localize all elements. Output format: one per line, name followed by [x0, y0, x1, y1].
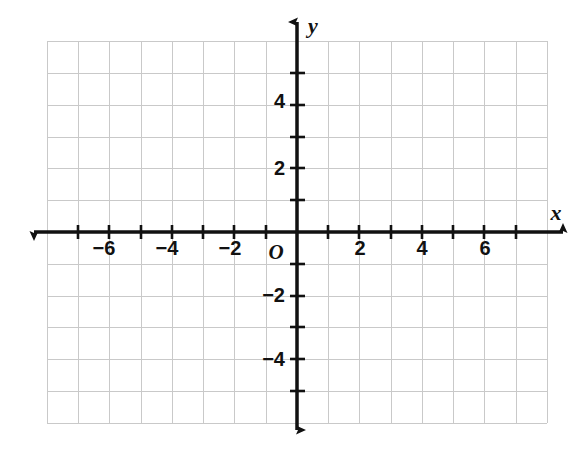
y-tick-label: 4	[274, 90, 286, 112]
x-tick-label: −2	[219, 237, 242, 259]
x-tick-label: −4	[156, 237, 180, 259]
x-tick-label: −6	[93, 237, 116, 259]
x-tick-label: 6	[479, 237, 490, 259]
x-tick-label: 4	[416, 237, 428, 259]
coordinate-plane-figure: −6 −4 −2 2 4 6 4 2 −2 −4 O x y	[0, 0, 577, 467]
coordinate-plane-svg: −6 −4 −2 2 4 6 4 2 −2 −4 O x y	[0, 0, 577, 467]
x-tick-label: 2	[354, 237, 365, 259]
y-tick-label: −4	[262, 348, 286, 370]
y-tick-label: −2	[262, 284, 285, 306]
y-tick-label: 2	[274, 157, 285, 179]
x-axis-label: x	[550, 200, 562, 225]
origin-label: O	[268, 240, 283, 264]
